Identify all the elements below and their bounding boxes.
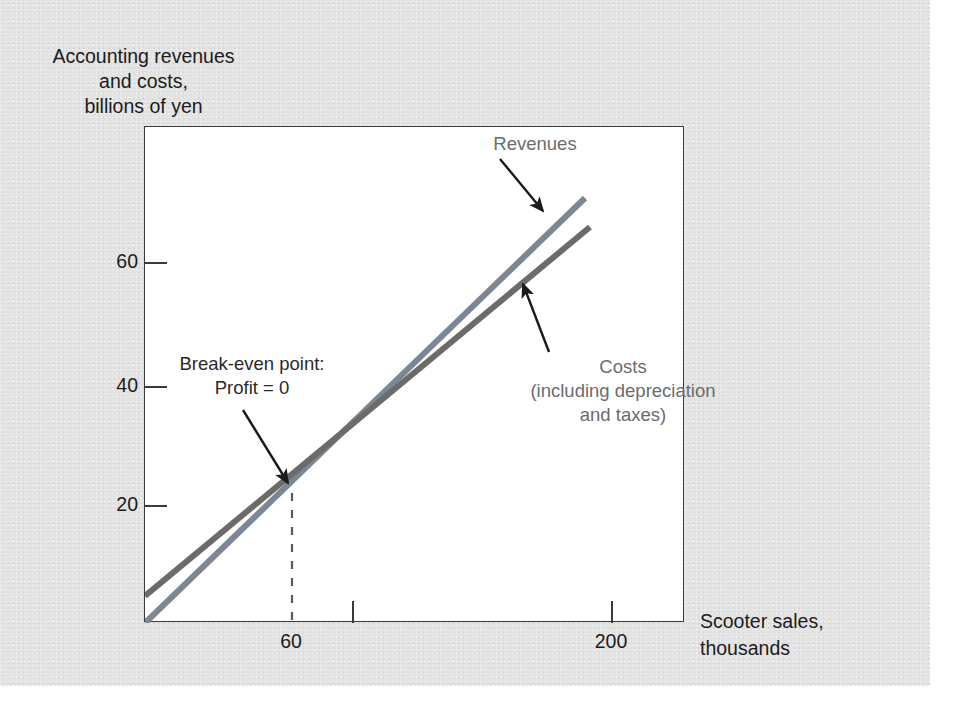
y-tick-label-40: 40 <box>78 374 138 397</box>
y-tick-label-60: 60 <box>78 250 138 273</box>
costs-annotation-arrow <box>523 284 549 352</box>
breakeven-annotation-arrow <box>243 410 288 483</box>
figure-container: Accounting revenues and costs, billions … <box>0 0 954 711</box>
y-tick-label-20: 20 <box>78 493 138 516</box>
breakeven-annotation-label: Break-even point: Profit = 0 <box>152 352 352 400</box>
revenues-annotation-label: Revenues <box>470 132 600 156</box>
y-axis-title: Accounting revenues and costs, billions … <box>36 44 251 119</box>
x-tick-label-60: 60 <box>251 630 331 653</box>
costs-annotation-label: Costs (including depreciation and taxes) <box>523 355 723 427</box>
x-axis-title: Scooter sales, thousands <box>700 608 824 662</box>
x-tick-label-200: 200 <box>571 630 651 653</box>
revenues-annotation-arrow <box>500 159 543 211</box>
